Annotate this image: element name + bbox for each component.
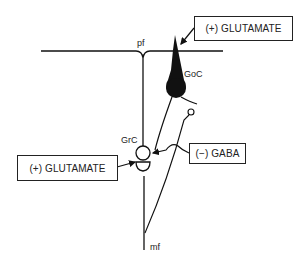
left-glutamate-box: (+) GLUTAMATE (17, 155, 118, 181)
golgi-axon (155, 97, 172, 150)
pf-label: pf (137, 39, 145, 48)
top-glutamate-box: (+) GLUTAMATE (194, 16, 293, 41)
granule-cell-body (136, 146, 150, 160)
gaba-arrow (153, 145, 189, 153)
top-glutamate-arrow (181, 28, 194, 44)
gaba-box: (−) GABA (189, 143, 246, 164)
mossy-terminal (188, 109, 194, 115)
mossy-fiber-collateral (145, 115, 189, 233)
grc-label: GrC (121, 136, 138, 145)
goc-label: GoC (184, 70, 203, 79)
left-glutamate-arrow (117, 162, 135, 167)
mf-label: mf (150, 243, 160, 252)
parallel-fiber-line (41, 51, 223, 58)
glomerulus-cup (136, 162, 150, 171)
